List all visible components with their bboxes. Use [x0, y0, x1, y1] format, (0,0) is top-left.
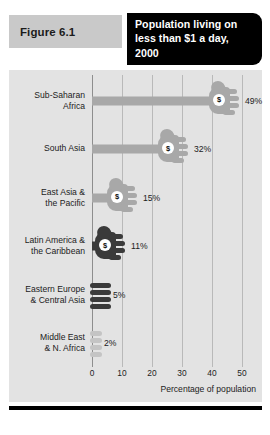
plot-area: Sub-SaharanAfrica$49%South Asia$32%East …	[9, 70, 262, 402]
bar-row: Eastern Europe& Central Asia5%	[9, 270, 262, 319]
dollar-coin-icon: $	[213, 94, 225, 106]
bar-value-label: 32%	[194, 144, 211, 154]
x-axis-ticks: 01020304050	[9, 368, 262, 384]
bar-finger	[109, 248, 125, 253]
figure-title-box: Population living on less than $1 a day,…	[127, 13, 262, 65]
bar-row: Middle East& N. Africa2%	[9, 319, 262, 368]
bar-finger	[90, 338, 102, 343]
hand-holding-coin-icon: $	[9, 129, 262, 169]
x-tick-label-30: 30	[177, 368, 186, 378]
bar-finger	[109, 255, 121, 260]
bar-row: Sub-SaharanAfrica$49%	[9, 76, 262, 125]
bar-finger	[223, 103, 239, 108]
bar-finger	[172, 144, 188, 149]
bar-finger	[121, 207, 133, 212]
bar-row: East Asia &the Pacific$15%	[9, 173, 262, 222]
bar-row: South Asia$32%	[9, 125, 262, 174]
bar-value-label: 15%	[143, 193, 160, 203]
bar-value-label: 5%	[113, 290, 125, 300]
bar-finger	[109, 234, 123, 239]
x-tick-label-50: 50	[237, 368, 246, 378]
x-tick-label-0: 0	[90, 368, 95, 378]
hand-holding-coin-icon: $	[9, 81, 262, 121]
bar-finger	[172, 158, 184, 163]
hand-holding-coin-icon	[9, 323, 262, 363]
bar-finger	[172, 137, 186, 142]
bar-finger	[223, 110, 235, 115]
bar-finger	[109, 241, 125, 246]
x-tick-label-10: 10	[117, 368, 126, 378]
bar-finger	[90, 283, 111, 288]
figure-number-label: Figure 6.1	[9, 26, 75, 38]
bar-rows: Sub-SaharanAfrica$49%South Asia$32%East …	[9, 70, 262, 367]
bar-finger	[223, 96, 239, 101]
bar-finger	[90, 345, 102, 350]
dollar-coin-icon: $	[111, 191, 123, 203]
bar-arm	[92, 96, 217, 105]
bar-finger	[90, 297, 111, 302]
bar-arm	[92, 145, 166, 154]
bar-value-label: 49%	[245, 96, 262, 106]
dollar-coin-icon: $	[162, 142, 174, 154]
x-tick-label-40: 40	[207, 368, 216, 378]
x-tick-label-20: 20	[147, 368, 156, 378]
bottom-rule	[9, 406, 262, 410]
figure-number-badge: Figure 6.1	[9, 15, 122, 48]
bar-value-label: 2%	[104, 338, 116, 348]
bar-row: Latin America &the Caribbean$11%	[9, 222, 262, 271]
bar-finger	[121, 200, 137, 205]
bar-finger	[90, 304, 111, 309]
bar-finger	[172, 151, 188, 156]
figure-title-line-1: Population living on	[135, 17, 256, 31]
hand-holding-coin-icon: $	[9, 178, 262, 218]
figure-root: Figure 6.1 Population living on less tha…	[0, 0, 270, 435]
figure-title-line-2: less than $1 a day,	[135, 31, 256, 45]
bar-finger	[90, 290, 111, 295]
figure-title-line-3: 2000	[135, 46, 256, 60]
bar-finger	[223, 89, 237, 94]
dollar-coin-icon: $	[99, 239, 111, 251]
bar-finger	[90, 352, 102, 357]
bar-finger	[121, 186, 135, 191]
x-axis-title: Percentage of population	[9, 384, 256, 394]
figure-header: Figure 6.1 Population living on less tha…	[9, 13, 262, 65]
bar-value-label: 11%	[131, 241, 148, 251]
chart-panel: Sub-SaharanAfrica$49%South Asia$32%East …	[9, 70, 262, 402]
bar-finger	[90, 331, 102, 336]
bar-finger	[121, 193, 137, 198]
hand-holding-coin-icon	[9, 275, 262, 315]
